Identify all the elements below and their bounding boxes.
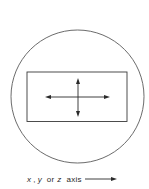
right-arrow-icon	[84, 175, 118, 183]
horizontal-double-arrow-icon	[45, 95, 110, 99]
axis-word-axis: axis	[67, 175, 82, 184]
diagram-canvas	[0, 0, 149, 189]
diagram: x , y or z axis	[0, 0, 149, 189]
field-of-view-circle	[11, 30, 144, 163]
axis-caption: x , y or z axis	[27, 174, 118, 184]
axis-word-or: or	[47, 175, 55, 184]
axis-var-x: x	[27, 175, 31, 184]
axis-var-z: z	[57, 175, 61, 184]
vertical-double-arrow-icon	[76, 78, 80, 117]
axis-var-y: y	[38, 175, 42, 184]
axis-separator: ,	[33, 175, 35, 184]
